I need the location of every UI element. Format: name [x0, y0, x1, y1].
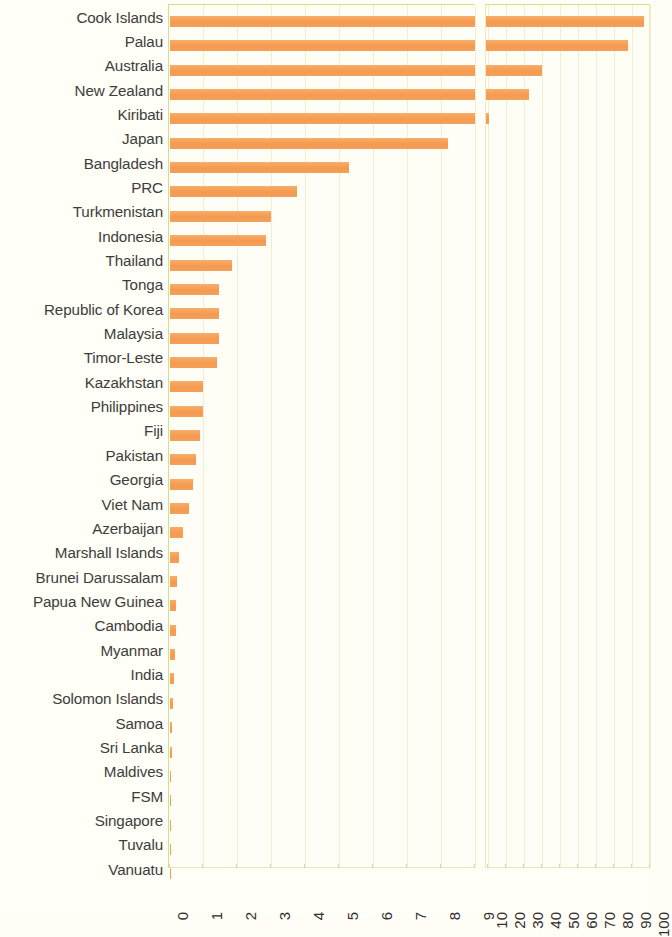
category-label: Kiribati: [0, 107, 163, 122]
bar: [170, 308, 219, 319]
category-label: Australia: [0, 58, 163, 73]
category-label: New Zealand: [0, 83, 163, 98]
category-label: Pakistan: [0, 448, 163, 463]
x-tick-mark: [372, 864, 373, 868]
gridline: [524, 5, 525, 867]
gridline: [560, 5, 561, 867]
category-label: Singapore: [0, 813, 163, 828]
category-label: Cambodia: [0, 618, 163, 633]
gridline: [614, 5, 615, 867]
bar: [486, 65, 542, 76]
x-tick-label: 3: [277, 912, 292, 920]
category-label: Viet Nam: [0, 497, 163, 512]
bar: [170, 503, 190, 514]
bar: [170, 552, 179, 563]
bar: [170, 600, 177, 611]
gridline: [339, 5, 340, 867]
x-tick-mark: [202, 864, 203, 868]
x-tick-mark: [474, 864, 475, 868]
x-tick-label: 40: [548, 912, 563, 929]
bar: [170, 235, 267, 246]
bar: [170, 333, 219, 344]
category-label: Tuvalu: [0, 837, 163, 852]
bar: [486, 16, 644, 27]
gridline: [650, 5, 651, 867]
x-tick-mark: [236, 864, 237, 868]
bar: [170, 113, 476, 124]
x-tick-mark: [631, 864, 632, 868]
bar: [170, 89, 476, 100]
x-tick-mark: [406, 864, 407, 868]
x-tick-mark: [649, 864, 650, 868]
x-tick-label: 30: [530, 912, 545, 929]
x-tick-label: 4: [311, 912, 326, 920]
x-tick-label: 5: [345, 912, 360, 920]
bar: [170, 211, 272, 222]
bar: [170, 576, 177, 587]
x-tick-label: 70: [602, 912, 617, 929]
gridline: [305, 5, 306, 867]
gridline: [632, 5, 633, 867]
x-tick-mark: [440, 864, 441, 868]
plot-panel-left-segment: [168, 4, 474, 868]
category-label: Brunei Darussalam: [0, 570, 163, 585]
x-tick-label: 50: [566, 912, 581, 929]
x-tick-mark: [270, 864, 271, 868]
category-label: Fiji: [0, 423, 163, 438]
bar: [170, 625, 176, 636]
category-label: Turkmenistan: [0, 204, 163, 219]
x-tick-mark: [487, 864, 488, 868]
category-label: Marshall Islands: [0, 545, 163, 560]
x-tick-mark: [559, 864, 560, 868]
x-tick-mark: [541, 864, 542, 868]
category-label: Maldives: [0, 764, 163, 779]
gridline: [542, 5, 543, 867]
category-label: PRC: [0, 180, 163, 195]
x-tick-label: 7: [413, 912, 428, 920]
x-tick-label: 20: [512, 912, 527, 929]
x-tick-label: 6: [379, 912, 394, 920]
bar: [170, 747, 172, 758]
bar: [170, 381, 204, 392]
x-tick-mark: [338, 864, 339, 868]
x-tick-mark: [505, 864, 506, 868]
category-label: Cook Islands: [0, 10, 163, 25]
category-label: FSM: [0, 789, 163, 804]
bar: [486, 113, 489, 124]
gridline: [407, 5, 408, 867]
category-label: Georgia: [0, 472, 163, 487]
gridline: [475, 5, 476, 867]
gridline: [506, 5, 507, 867]
category-label: Republic of Korea: [0, 302, 163, 317]
bar: [170, 186, 297, 197]
gridline: [237, 5, 238, 867]
x-tick-label: 90: [638, 912, 653, 929]
bar: [170, 795, 172, 806]
x-tick-mark: [595, 864, 596, 868]
bar: [170, 820, 172, 831]
category-label: Malaysia: [0, 326, 163, 341]
x-tick-label: 60: [584, 912, 599, 929]
gridline: [596, 5, 597, 867]
bar: [170, 65, 476, 76]
category-label: Myanmar: [0, 643, 163, 658]
bar: [170, 698, 174, 709]
category-label: Papua New Guinea: [0, 594, 163, 609]
category-label: Azerbaijan: [0, 521, 163, 536]
category-label: Kazakhstan: [0, 375, 163, 390]
x-tick-mark: [577, 864, 578, 868]
category-label: Sri Lanka: [0, 740, 163, 755]
bar: [170, 162, 350, 173]
category-label: Palau: [0, 34, 163, 49]
category-label: India: [0, 667, 163, 682]
bar: [170, 722, 173, 733]
bar: [170, 771, 172, 782]
value-axis: 0123456789102030405060708090100: [0, 868, 654, 917]
bar: [170, 844, 172, 855]
bar: [486, 89, 529, 100]
x-tick-mark: [304, 864, 305, 868]
x-tick-label: 100: [656, 912, 671, 937]
bar: [170, 260, 233, 271]
category-label: Thailand: [0, 253, 163, 268]
